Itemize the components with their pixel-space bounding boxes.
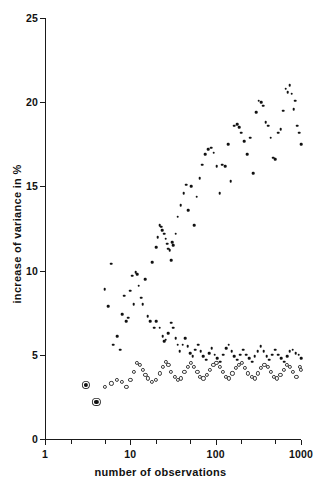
x-tick-label-10: 10 — [124, 448, 136, 460]
data-point — [249, 136, 252, 139]
data-point — [271, 354, 274, 357]
data-point — [240, 131, 243, 134]
data-point — [240, 361, 244, 365]
data-point — [278, 373, 282, 377]
data-point — [182, 192, 185, 195]
data-point — [169, 370, 173, 374]
data-point — [224, 165, 227, 168]
data-point — [84, 383, 88, 387]
data-point — [189, 352, 192, 355]
x-minor-tick-200 — [241, 440, 242, 444]
data-point — [200, 350, 203, 353]
data-point — [219, 192, 222, 195]
data-point — [221, 370, 225, 374]
data-point — [297, 354, 300, 357]
data-point — [233, 366, 237, 370]
data-point — [298, 131, 301, 134]
data-point — [112, 343, 115, 346]
data-point — [179, 376, 183, 380]
data-point — [119, 348, 122, 351]
data-point — [201, 163, 204, 166]
data-point — [142, 303, 145, 306]
data-point — [222, 354, 225, 357]
plot-area — [45, 18, 301, 439]
data-point — [170, 259, 173, 262]
data-point — [172, 244, 175, 247]
figure-scatter-variance-vs-observations: 0510152025 1101001000 number of observat… — [0, 0, 321, 487]
data-point — [179, 204, 182, 207]
data-point — [161, 335, 164, 338]
data-point — [190, 185, 193, 188]
data-point — [110, 263, 113, 266]
x-tick-label-1000: 1000 — [289, 448, 313, 460]
data-point — [255, 111, 258, 114]
x-minor-tick-500 — [275, 440, 276, 444]
data-point — [227, 143, 230, 146]
data-point — [125, 320, 128, 323]
data-point — [269, 136, 272, 139]
data-point — [174, 337, 177, 340]
data-point — [168, 249, 171, 252]
data-point — [167, 332, 170, 335]
data-point — [292, 108, 295, 111]
data-point — [225, 347, 228, 350]
x-tick-10 — [130, 440, 131, 445]
data-point — [219, 360, 222, 363]
data-point — [265, 355, 268, 358]
data-point — [164, 338, 167, 341]
data-point — [236, 123, 239, 126]
data-point — [242, 348, 245, 351]
data-point — [179, 350, 182, 353]
data-point — [171, 241, 174, 244]
data-point — [198, 177, 201, 180]
data-point — [280, 128, 283, 131]
data-point — [281, 368, 285, 372]
data-point — [155, 246, 158, 249]
data-point — [136, 273, 139, 276]
data-point — [262, 104, 265, 107]
data-point — [227, 343, 230, 346]
data-point — [120, 380, 124, 384]
data-point — [296, 124, 299, 127]
data-point — [230, 350, 233, 353]
data-point — [186, 364, 190, 368]
x-tick-100 — [216, 440, 217, 445]
data-point — [138, 363, 142, 367]
data-point — [217, 364, 221, 368]
data-point — [116, 335, 119, 338]
data-point — [299, 368, 303, 372]
data-point — [243, 366, 247, 370]
data-point — [289, 84, 292, 87]
data-point — [274, 348, 277, 351]
data-point — [184, 337, 187, 340]
data-point — [140, 296, 143, 299]
data-point — [257, 350, 260, 353]
data-point — [215, 165, 218, 168]
data-point — [229, 180, 232, 183]
data-point — [205, 373, 209, 377]
data-point — [161, 229, 164, 232]
data-point — [256, 371, 260, 375]
data-point — [286, 355, 289, 358]
data-point — [192, 355, 195, 358]
data-point — [268, 359, 271, 362]
data-point — [213, 354, 216, 357]
data-point — [128, 378, 132, 382]
data-point — [174, 232, 177, 235]
data-point — [166, 363, 170, 367]
data-point — [291, 370, 295, 374]
data-point — [265, 364, 269, 368]
data-point — [260, 101, 263, 104]
data-point — [121, 313, 124, 316]
data-point — [155, 320, 158, 323]
data-point — [164, 237, 167, 240]
x-tick-1 — [45, 440, 46, 445]
data-point — [259, 366, 263, 370]
data-point — [193, 224, 196, 227]
data-point — [227, 376, 231, 380]
data-point — [123, 295, 126, 298]
data-point — [245, 354, 248, 357]
data-point — [194, 348, 197, 351]
data-point — [163, 232, 166, 235]
data-point — [146, 315, 149, 318]
